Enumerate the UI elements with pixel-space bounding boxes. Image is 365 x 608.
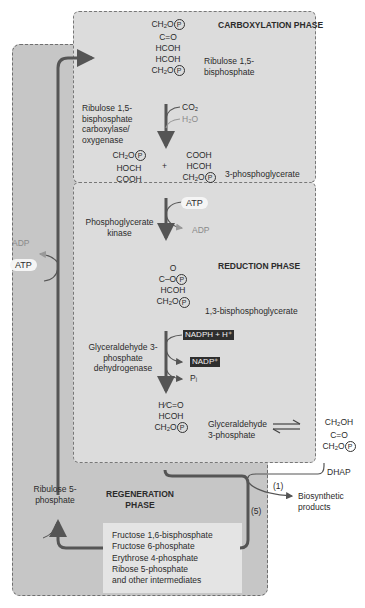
rubp-structure: CH2OPC=OHCOHHCOHCH2OP (148, 19, 188, 78)
branch-five-label: (5) (251, 506, 261, 517)
intermediates-list: Fructose 1,6-bisphosphate Fructose 6-pho… (112, 530, 213, 586)
pga-left-structure: CH2OPHOCHCOOH (106, 150, 152, 185)
reduction-phase-title: REDUCTION PHASE (218, 261, 298, 272)
gapdh-label: Glyceraldehyde 3-phosphate dehydrogenase (84, 342, 162, 374)
pgk-label: Phosphoglycerate kinase (82, 217, 157, 238)
regeneration-phase-title: REGENERATION PHASE (95, 489, 185, 510)
bpg-label: 1,3-bisphosphoglycerate (205, 306, 298, 317)
g3p-label: Glyceraldehyde 3-phosphate (208, 419, 272, 440)
pga-label: 3-phosphoglycerate (225, 169, 300, 180)
g3p-structure: H∕C=OHCOHCH2OP (146, 400, 196, 435)
intermediate-item: Ribose 5-phosphate (112, 564, 213, 575)
carboxylation-phase-title: CARBOXYLATION PHASE (218, 20, 298, 31)
atp-pill: ATP (181, 197, 208, 209)
ru5p-label: Ribulose 5-phosphate (30, 484, 80, 505)
nadph-tag: NADPH + H⁺ (183, 330, 234, 340)
co2-label: CO₂ (182, 102, 198, 113)
bpg-structure: OC–OPHCOHCH2OP (150, 263, 196, 309)
intermediate-item: Fructose 6-phosphate (112, 541, 213, 552)
h2o-label: H₂O (182, 114, 198, 125)
adp-regen-label: ADP (12, 238, 29, 249)
atp-regen-pill: ATP (10, 259, 37, 271)
intermediate-item: Erythrose 4-phosphate (112, 553, 213, 564)
pga-right-structure: COOHHCOHCH2OP (176, 150, 222, 185)
pi-label: Pᵢ (190, 373, 197, 384)
dhap-structure: CH2OHC=OCH2OP (318, 417, 360, 454)
nadp-tag: NADP⁺ (190, 357, 220, 367)
dhap-label: DHAP (327, 467, 351, 478)
plus-sign: + (162, 161, 167, 172)
rubisco-label: Ribulose 1,5-bisphosphate carboxylase/ o… (82, 103, 157, 145)
biosynthetic-products-label: Biosynthetic products (298, 491, 358, 512)
rubp-label: Ribulose 1,5-bisphosphate (204, 56, 264, 77)
intermediate-item: Fructose 1,6-bisphosphate (112, 530, 213, 541)
intermediate-item: and other intermediates (112, 575, 213, 586)
adp-label: ADP (192, 225, 209, 236)
branch-one-label: (1) (273, 481, 283, 492)
